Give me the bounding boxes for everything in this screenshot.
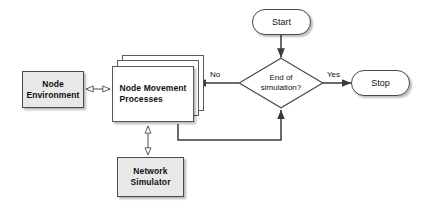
node-environment-label-line1: Node	[42, 79, 64, 89]
stop-label: Stop	[371, 78, 390, 88]
node-movement-processes-label: Node Movement Processes	[120, 83, 187, 105]
stop-terminal[interactable]: Stop	[351, 70, 410, 96]
decision-diamond[interactable]: End of simulation?	[238, 57, 324, 109]
decision-label-line2: simulation?	[261, 83, 301, 92]
node-movement-processes-label-line2: Processes	[120, 94, 163, 104]
node-environment-label-line2: Environment	[26, 90, 79, 100]
start-label: Start	[272, 17, 291, 27]
start-terminal[interactable]: Start	[252, 9, 311, 35]
edge-label-yes: Yes	[327, 70, 340, 79]
node-movement-processes-stack[interactable]: Node Movement Processes	[112, 55, 206, 123]
network-simulator-box[interactable]: Network Simulator	[117, 157, 184, 197]
node-movement-processes-label-line1: Node Movement	[120, 83, 187, 93]
network-simulator-label: Network Simulator	[130, 166, 170, 188]
decision-label: End of simulation?	[238, 57, 324, 109]
decision-label-line1: End of	[269, 73, 292, 82]
edge-label-no: No	[210, 70, 220, 79]
node-environment-label: Node Environment	[26, 79, 79, 101]
network-simulator-label-line2: Simulator	[130, 177, 170, 187]
flowchart-canvas: Node Environment Node Movement Processes…	[0, 0, 430, 211]
process-card-front[interactable]: Node Movement Processes	[112, 66, 194, 122]
network-simulator-label-line1: Network	[133, 166, 167, 176]
node-environment-box[interactable]: Node Environment	[22, 71, 84, 108]
